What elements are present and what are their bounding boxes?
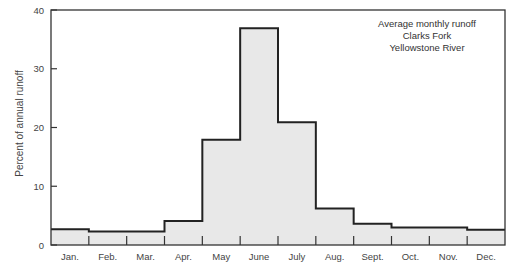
x-tick-label: Dec. [476,251,496,262]
y-tick-label: 10 [33,181,44,192]
x-tick-label: Aug. [325,251,345,262]
annotation-line-2: Clarks Fork [357,30,497,42]
x-tick-label: Sept. [361,251,383,262]
annotation-line-1: Average monthly runoff [357,18,497,30]
y-tick-label: 40 [33,5,44,16]
x-tick-label: Apr. [175,251,192,262]
chart-annotation: Average monthly runoff Clarks Fork Yello… [357,18,497,54]
y-tick-label: 0 [39,240,44,251]
x-tick-label: May [212,251,230,262]
x-tick-label: Nov. [439,251,458,262]
x-tick-label: Mar. [136,251,154,262]
x-tick-label: June [249,251,270,262]
y-tick-label: 20 [33,122,44,133]
annotation-line-3: Yellowstone River [357,42,497,54]
y-axis-label: Percent of annual runoff [14,49,25,199]
x-tick-label: Oct. [402,251,419,262]
x-tick-label: Feb. [98,251,117,262]
y-tick-label: 30 [33,63,44,74]
x-tick-label: Jan. [61,251,79,262]
x-tick-label: July [288,251,305,262]
